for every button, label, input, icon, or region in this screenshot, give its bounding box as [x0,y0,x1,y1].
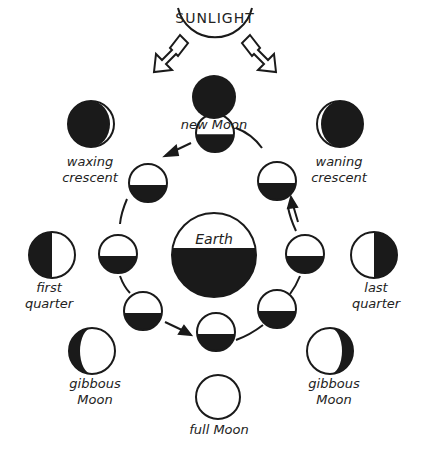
label-waning-crescent-1: waning [316,154,363,169]
sunlight-label: SUNLIGHT [175,10,254,26]
orbit-moon-full [197,313,235,351]
label-last-quarter-2: quarter [352,296,402,311]
phase-waxing-crescent-icon [68,101,114,147]
label-full-moon: full Moon [189,422,249,437]
label-waxing-crescent-2: crescent [62,170,119,185]
orbit-moon-waning-gibbous [258,290,296,328]
label-last-quarter-1: last [364,280,388,295]
earth [172,213,256,297]
orbit-moon-waning-crescent [258,162,296,200]
phase-waning-gibbous-icon [307,328,353,374]
orbit-moon-last-quarter [286,235,324,273]
phase-new-moon-icon [192,75,236,119]
phase-last-quarter-icon [351,232,397,278]
orbit-moon-waxing-gibbous [124,292,162,330]
label-first-quarter-1: first [36,280,63,295]
phase-full-moon-icon [196,375,240,419]
phase-waning-crescent-icon [317,101,363,147]
moon-phases-diagram: SUNLIGHT [0,0,429,455]
label-waxing-crescent-1: waxing [67,154,113,169]
label-waxing-gibbous-2: Moon [77,392,112,407]
label-waning-gibbous-2: Moon [316,392,351,407]
label-waning-crescent-2: crescent [311,170,368,185]
label-first-quarter-2: quarter [25,296,75,311]
label-new-moon: new Moon [181,117,247,132]
orbit-moon-waxing-crescent [129,164,167,202]
phase-waxing-gibbous-icon [69,328,115,374]
label-waxing-gibbous-1: gibbous [69,376,121,391]
orbit-moon-first-quarter [99,235,137,273]
label-waning-gibbous-1: gibbous [308,376,360,391]
earth-label: Earth [195,231,233,247]
phase-first-quarter-icon [29,232,75,278]
